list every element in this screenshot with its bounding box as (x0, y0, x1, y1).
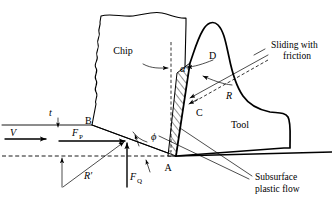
tool-label: Tool (231, 119, 249, 130)
force-FP-symbol: F (71, 127, 79, 138)
cutting-diagram-figure: Chip Tool α ϕ A B C D V t F P F Q R′ R S… (0, 0, 332, 201)
subsurface-plastic-flow-line2: plastic flow (255, 184, 300, 194)
point-C-label: C (196, 107, 203, 118)
subsurface-plastic-flow-label: Subsurface plastic flow (255, 172, 300, 194)
sliding-with-friction-leader (254, 49, 265, 55)
resultant-R-label: R (225, 90, 232, 101)
point-B-label: B (85, 115, 92, 126)
shear-angle-label: ϕ (151, 131, 157, 142)
force-FQ-label: F Q (129, 171, 142, 185)
point-A-label: A (164, 162, 172, 173)
chip-label: Chip (113, 45, 132, 56)
point-D-label: D (209, 50, 216, 61)
force-FQ-symbol: F (129, 171, 137, 182)
depth-of-cut-label: t (49, 107, 52, 118)
velocity-label: V (10, 127, 18, 138)
subsurface-plastic-flow-line1: Subsurface (255, 172, 297, 182)
sliding-with-friction-line2: friction (283, 51, 311, 61)
resultant-Rprime-arrow (63, 142, 124, 187)
sliding-with-friction-line1: Sliding with (271, 40, 318, 50)
rake-angle-label: α (180, 63, 186, 74)
force-FP-subscript: P (79, 133, 83, 141)
orthogonal-cutting-svg: Chip Tool α ϕ A B C D V t F P F Q R′ R S… (0, 0, 332, 201)
force-FP-label: F P (71, 127, 83, 141)
resultant-Rprime-label: R′ (83, 170, 93, 181)
baseline-angle-pointer (146, 160, 150, 172)
force-FQ-subscript: Q (137, 177, 142, 185)
sliding-with-friction-label: Sliding with friction (271, 40, 318, 61)
